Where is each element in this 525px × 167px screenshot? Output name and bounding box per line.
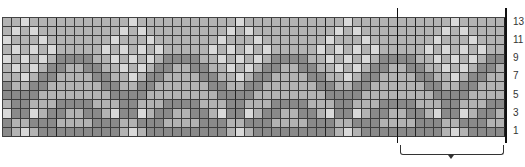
chart-cell [218, 64, 227, 73]
chart-cell [200, 36, 209, 45]
chart-cell [362, 109, 371, 118]
chart-cell [138, 73, 147, 82]
chart-cell [416, 100, 425, 109]
chart-cell [416, 109, 425, 118]
chart-cell [478, 18, 487, 27]
chart-cell [407, 100, 416, 109]
chart-cell [416, 18, 425, 27]
chart-cell [3, 128, 12, 137]
chart-cell [75, 64, 84, 73]
chart-cell [344, 100, 353, 109]
chart-cell [129, 109, 138, 118]
chart-cell [407, 82, 416, 91]
chart-cell [371, 109, 380, 118]
chart-cell [451, 109, 460, 118]
chart-cell [398, 128, 407, 137]
chart-cell [191, 36, 200, 45]
chart-cell [218, 119, 227, 128]
chart-cell [191, 91, 200, 100]
chart-cell [66, 55, 75, 64]
chart-cell [138, 45, 147, 54]
chart-cell [39, 100, 48, 109]
chart-cell [129, 100, 138, 109]
chart-cell [182, 109, 191, 118]
chart-cell [416, 91, 425, 100]
chart-cell [182, 36, 191, 45]
chart-cell [218, 91, 227, 100]
chart-cell [487, 27, 496, 36]
chart-cell [281, 27, 290, 36]
chart-cell [469, 73, 478, 82]
chart-cell [209, 27, 218, 36]
chart-cell [407, 109, 416, 118]
chart-cell [442, 91, 451, 100]
chart-cell [102, 18, 111, 27]
chart-cell [460, 27, 469, 36]
chart-cell [30, 64, 39, 73]
chart-cell [344, 128, 353, 137]
chart-cell [39, 36, 48, 45]
chart-cell [299, 45, 308, 54]
chart-cell [425, 109, 434, 118]
chart-cell [496, 109, 505, 118]
chart-cell [442, 18, 451, 27]
chart-cell [469, 119, 478, 128]
chart-cell [129, 45, 138, 54]
chart-cell [236, 82, 245, 91]
chart-cell [254, 100, 263, 109]
chart-cell [191, 128, 200, 137]
chart-cell [469, 45, 478, 54]
chart-cell [398, 82, 407, 91]
chart-cell [344, 91, 353, 100]
chart-cell [290, 64, 299, 73]
chart-cell [308, 100, 317, 109]
chart-cell [478, 82, 487, 91]
chart-cell [173, 100, 182, 109]
chart-cell [191, 100, 200, 109]
chart-cell [290, 91, 299, 100]
chart-cell [299, 82, 308, 91]
chart-cell [111, 82, 120, 91]
chart-cell [3, 100, 12, 109]
chart-cell [245, 55, 254, 64]
chart-cell [371, 18, 380, 27]
chart-cell [442, 119, 451, 128]
chart-cell [3, 91, 12, 100]
chart-cell [290, 73, 299, 82]
chart-cell [442, 100, 451, 109]
chart-cell [21, 36, 30, 45]
chart-cell [434, 100, 443, 109]
chart-cell [93, 45, 102, 54]
chart-cell [416, 128, 425, 137]
chart-cell [173, 18, 182, 27]
chart-cell [263, 73, 272, 82]
chart-cell [138, 91, 147, 100]
row-label-11: 11 [513, 35, 523, 45]
chart-cell [469, 128, 478, 137]
chart-cell [380, 18, 389, 27]
chart-cell [299, 128, 308, 137]
chart-cell [371, 119, 380, 128]
chart-cell [191, 55, 200, 64]
chart-cell [66, 100, 75, 109]
chart-cell [120, 109, 129, 118]
chart-cell [75, 27, 84, 36]
chart-cell [290, 45, 299, 54]
chart-cell [227, 36, 236, 45]
chart-cell [21, 18, 30, 27]
chart-cell [227, 91, 236, 100]
chart-cell [3, 45, 12, 54]
chart-cell [245, 128, 254, 137]
chart-cell [30, 119, 39, 128]
chart-cell [425, 64, 434, 73]
chart-cell [317, 119, 326, 128]
chart-cell [478, 109, 487, 118]
chart-cell [263, 100, 272, 109]
chart-cell [335, 119, 344, 128]
chart-cell [317, 91, 326, 100]
chart-cell [290, 18, 299, 27]
chart-cell [48, 82, 57, 91]
chart-cell [147, 45, 156, 54]
chart-cell [200, 73, 209, 82]
chart-cell [138, 119, 147, 128]
